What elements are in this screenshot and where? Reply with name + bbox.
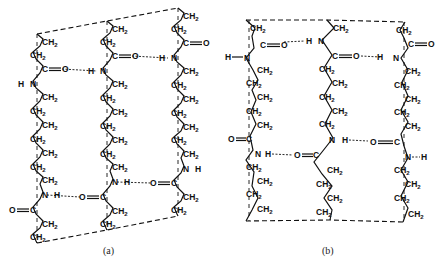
ch2-label: CH2 (42, 219, 58, 230)
panel-b-structure: CH2 C O H N CH2 CH2 CH2 CH2 CH2 O C N H … (225, 20, 435, 222)
ch2-label: CH2 (246, 189, 262, 200)
amide-n: N (171, 53, 177, 63)
ch2-label: CH2 (100, 149, 116, 160)
unit-cell-top-edge (246, 20, 405, 22)
ch2-label: CH2 (246, 78, 262, 89)
carbonyl-c: C (30, 205, 36, 215)
caption-a: (a) (103, 245, 114, 257)
ch2-label: CH2 (246, 162, 262, 173)
free-h: H (225, 52, 231, 62)
ch2-label: CH2 (100, 93, 116, 104)
amide-n: N (30, 79, 36, 89)
ch2-label: CH2 (257, 65, 273, 76)
ch2-label: CH2 (394, 107, 410, 118)
ch2-label: CH2 (112, 206, 128, 217)
h-atom: H (54, 190, 60, 200)
ch2-label: CH2 (171, 80, 187, 91)
ch2-label: CH2 (171, 108, 187, 119)
carbonyl-c: C (260, 40, 266, 50)
ch2-label: CH2 (42, 92, 58, 103)
ch2-label: CH2 (319, 64, 335, 75)
ch2-label: CH2 (333, 23, 349, 34)
carbonyl-c: C (183, 38, 189, 48)
ch2-label: CH2 (30, 106, 46, 117)
ch2-label: CH2 (171, 135, 187, 146)
h-atom: H (195, 164, 201, 174)
ch2-label: CH2 (183, 122, 199, 133)
amide-n: N (393, 53, 399, 63)
ch2-label: CH2 (327, 165, 343, 176)
ch2-label: CH2 (316, 179, 332, 190)
ch2-label: CH2 (408, 209, 424, 220)
carbonyl-c: C (313, 150, 319, 160)
h-atom: H (265, 149, 271, 159)
amide-n: N (100, 66, 106, 76)
ch2-label: CH2 (30, 50, 46, 61)
ch2-label: CH2 (183, 94, 199, 105)
ch2-label: CH2 (112, 162, 128, 173)
ch2-label: CH2 (332, 106, 348, 117)
hydrogen-bond (117, 182, 151, 183)
chain-b1: CH2 C O H N CH2 CH2 CH2 CH2 CH2 O C N H … (225, 20, 293, 221)
ch2-label: CH2 (30, 162, 46, 173)
caption-b: (b) (322, 245, 334, 257)
ch2-label: CH2 (319, 119, 335, 130)
h-atom: H (306, 36, 312, 46)
ch2-label: CH2 (100, 219, 116, 230)
panel-a-structure: CH2CH2COHNCH2CH2CH2CH2CH2CH2CH2NHOCCH2CH… (9, 8, 210, 243)
carbonyl-o: O (79, 192, 86, 202)
carbonyl-c: C (171, 178, 177, 188)
free-o: O (428, 39, 435, 49)
ch2-label: CH2 (327, 193, 343, 204)
h-atom: H (18, 79, 24, 89)
ch2-label: CH2 (405, 121, 421, 132)
hydrogen-bond (47, 195, 80, 197)
ch2-label: CH2 (112, 24, 128, 35)
ch2-label: CH2 (405, 179, 421, 190)
ch2-label: CH2 (112, 107, 128, 118)
ch2-label: CH2 (183, 192, 199, 203)
carbonyl-o: O (294, 150, 301, 160)
ch2-label: CH2 (42, 37, 58, 48)
ch2-label: CH2 (42, 175, 58, 186)
chain-b2: CH2 H N C O CH2 CH2 CH2 CH2 CH2 N H O C … (284, 20, 380, 220)
ch2-label: CH2 (396, 25, 412, 36)
amide-n: N (244, 53, 250, 63)
ch2-label: CH2 (394, 80, 410, 91)
carbonyl-o: O (9, 205, 16, 215)
ch2-label: CH2 (257, 92, 273, 103)
ch2-label: CH2 (112, 135, 128, 146)
carbonyl-o: O (228, 134, 235, 144)
ch2-label: CH2 (100, 121, 116, 132)
amide-n: N (318, 36, 324, 46)
ch2-label: CH2 (319, 92, 335, 103)
ch2-label: CH2 (332, 78, 348, 89)
ch2-label: CH2 (405, 94, 421, 105)
carbonyl-o: O (353, 51, 360, 61)
carbonyl-c: C (112, 51, 118, 61)
carbonyl-o: O (203, 38, 210, 48)
carbonyl-c: C (394, 137, 400, 147)
amide-n: N (255, 149, 261, 159)
carbonyl-o: O (281, 40, 288, 50)
free-h: H (421, 152, 427, 162)
ch2-label: CH2 (42, 148, 58, 159)
amide-n: N (329, 135, 335, 145)
ch2-label: CH2 (394, 165, 410, 176)
ch2-label: CH2 (394, 193, 410, 204)
amide-n: N (405, 152, 411, 162)
carbonyl-c: C (42, 64, 48, 74)
ch2-label: CH2 (250, 23, 266, 34)
ch2-label: CH2 (183, 149, 199, 160)
carbonyl-c: C (246, 134, 252, 144)
ch2-label: CH2 (183, 66, 199, 77)
ch2-label: CH2 (112, 79, 128, 90)
ch2-label: CH2 (257, 176, 273, 187)
ch2-label: CH2 (405, 66, 421, 77)
ch2-label: CH2 (246, 106, 262, 117)
ch2-label: CH2 (257, 120, 273, 131)
ch2-label: CH2 (30, 134, 46, 145)
ch2-label: CH2 (42, 120, 58, 131)
ch2-label: CH2 (100, 37, 116, 48)
ch2-label: CH2 (171, 24, 187, 35)
